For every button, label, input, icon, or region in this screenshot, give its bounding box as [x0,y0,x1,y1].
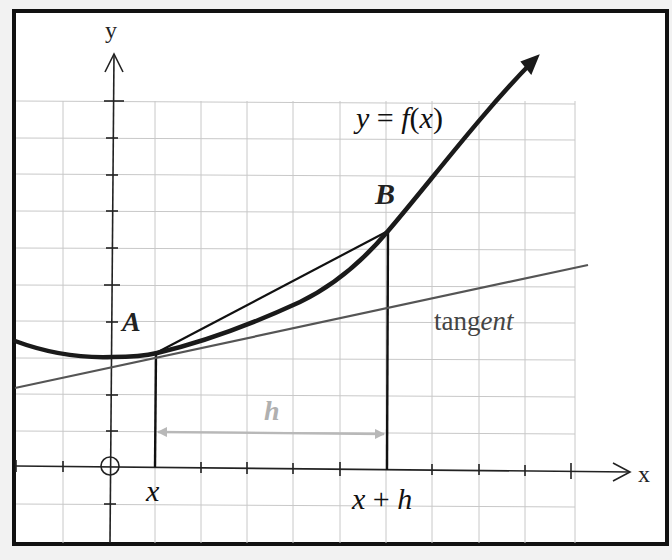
point-a-label: A [120,306,141,337]
curve-label: y = f(x) [353,101,443,135]
x-tick-label: x [145,474,160,507]
point-b-label: B [374,177,395,210]
secant-tangent-diagram: y x y = f(x) A B tangent h x x + h [0,0,672,560]
x-plus-h-tick-label: x + h [351,482,412,515]
drop-line-b [387,231,388,470]
drop-line-a [155,353,156,467]
tangent-label: tangent [434,306,515,336]
x-axis-label: x [638,461,650,487]
y-axis-label: y [105,17,117,43]
interval-h-label: h [264,395,280,426]
